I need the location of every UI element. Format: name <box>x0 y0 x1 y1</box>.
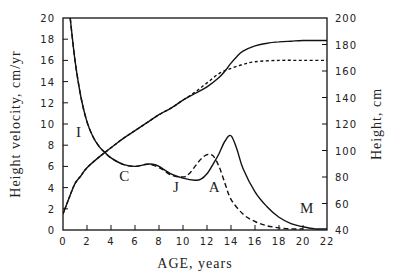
right-y-tick-label: 180 <box>335 40 357 51</box>
right-y-tick-label: 40 <box>335 225 350 236</box>
right-y-axis-title: Height, cm <box>369 88 384 160</box>
x-tick-label: 10 <box>176 236 191 247</box>
x-tick-label: 12 <box>200 236 215 247</box>
left-y-axis-title: Height velocity, cm/yr <box>8 50 23 197</box>
left-y-tick-label: 12 <box>40 98 55 109</box>
plot-frame <box>63 18 327 230</box>
plot-lines <box>63 18 327 229</box>
left-y-tick-label: 18 <box>40 34 55 45</box>
series-line-2 <box>63 40 327 214</box>
annotation-label: I <box>76 124 81 140</box>
left-y-tick-label: 2 <box>48 204 55 215</box>
left-y-tick-label: 10 <box>40 119 55 130</box>
x-tick-label: 4 <box>107 236 114 247</box>
annotation-label: A <box>209 179 220 195</box>
right-y-tick-label: 200 <box>335 13 357 24</box>
left-y-tick-label: 20 <box>40 13 55 24</box>
series-line-3 <box>63 60 327 214</box>
x-tick-label: 20 <box>296 236 311 247</box>
left-y-tick-label: 0 <box>48 225 55 236</box>
right-y-tick-label: 100 <box>335 146 357 157</box>
right-y-tick-label: 120 <box>335 119 357 130</box>
x-tick-label: 8 <box>155 236 162 247</box>
x-axis-title: AGE, years <box>157 256 232 271</box>
left-y-tick-label: 6 <box>48 161 55 172</box>
series-line-0 <box>70 18 327 229</box>
x-tick-label: 14 <box>224 236 239 247</box>
x-tick-label: 22 <box>320 236 335 247</box>
right-y-tick-label: 160 <box>335 66 357 77</box>
left-y-tick-label: 14 <box>40 77 55 88</box>
x-tick-label: 0 <box>59 236 66 247</box>
curve-annotations: ICJAM <box>76 124 313 216</box>
x-tick-label: 2 <box>83 236 90 247</box>
left-y-tick-label: 8 <box>48 140 55 151</box>
annotation-label: M <box>300 200 313 216</box>
x-tick-label: 18 <box>272 236 287 247</box>
growth-chart: 0246810121416182022024681012141618204060… <box>0 0 393 279</box>
series-line-1 <box>70 18 303 229</box>
right-y-tick-label: 60 <box>335 199 350 210</box>
left-y-tick-label: 16 <box>40 55 55 66</box>
right-y-tick-label: 80 <box>335 172 350 183</box>
left-y-tick-label: 4 <box>48 183 55 194</box>
annotation-label: J <box>173 179 179 195</box>
x-tick-label: 6 <box>131 236 138 247</box>
x-tick-label: 16 <box>248 236 263 247</box>
annotation-label: C <box>119 168 129 184</box>
right-y-tick-label: 140 <box>335 93 357 104</box>
